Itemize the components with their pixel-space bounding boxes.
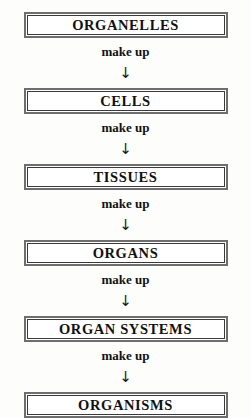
arrow-down-icon: ↓ xyxy=(119,218,132,233)
flow-node-label: ORGANELLES xyxy=(72,18,179,33)
flow-node-label: ORGANISMS xyxy=(78,398,173,413)
flow-node-label: ORGANS xyxy=(93,246,159,261)
arrow-down-icon: ↓ xyxy=(119,370,132,385)
flow-node-label: ORGAN SYSTEMS xyxy=(59,322,192,337)
flow-connector-3: make up ↓ xyxy=(101,190,149,240)
flow-node-organelles: ORGANELLES xyxy=(24,12,228,38)
arrow-down-icon: ↓ xyxy=(119,142,132,157)
flow-node-tissues: TISSUES xyxy=(24,164,228,190)
flow-node-inner: CELLS xyxy=(27,91,225,111)
arrow-down-icon: ↓ xyxy=(119,294,132,309)
flow-node-organisms: ORGANISMS xyxy=(24,392,228,418)
flow-node-cells: CELLS xyxy=(24,88,228,114)
flow-node-inner: ORGANELLES xyxy=(27,15,225,35)
flow-node-label: CELLS xyxy=(100,94,151,109)
flow-node-label: TISSUES xyxy=(94,170,158,185)
flow-connector-5: make up ↓ xyxy=(101,342,149,392)
flow-node-organs: ORGANS xyxy=(24,240,228,266)
flow-connector-4: make up ↓ xyxy=(101,266,149,316)
flow-node-inner: TISSUES xyxy=(27,167,225,187)
flow-node-inner: ORGAN SYSTEMS xyxy=(27,319,225,339)
flow-connector-2: make up ↓ xyxy=(101,114,149,164)
arrow-down-icon: ↓ xyxy=(119,66,132,81)
connector-label: make up xyxy=(101,349,149,362)
connector-label: make up xyxy=(101,121,149,134)
flow-node-inner: ORGANS xyxy=(27,243,225,263)
connector-label: make up xyxy=(101,197,149,210)
flow-node-organ-systems: ORGAN SYSTEMS xyxy=(24,316,228,342)
connector-label: make up xyxy=(101,273,149,286)
flow-node-inner: ORGANISMS xyxy=(27,395,225,415)
connector-label: make up xyxy=(101,45,149,58)
flow-connector-1: make up ↓ xyxy=(101,38,149,88)
